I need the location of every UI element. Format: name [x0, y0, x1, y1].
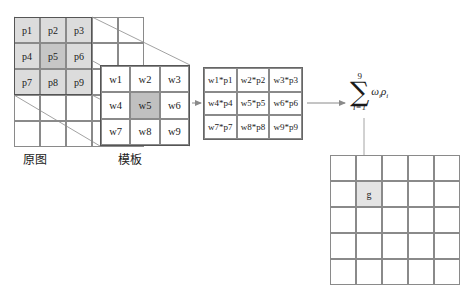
template-cell-w2: w2 — [130, 66, 159, 92]
summation-formula: 9 ∑ i=1 ωiρi — [350, 68, 416, 116]
output-cell-r0c4 — [434, 155, 460, 181]
output-cell-r3c3 — [408, 233, 434, 259]
source-cell-r0c4 — [118, 17, 144, 43]
template-cell-w4: w4 — [101, 92, 130, 118]
output-cell-r4c0 — [330, 259, 356, 285]
source-cell-p8: p8 — [40, 69, 66, 95]
output-cell-r0c1 — [356, 155, 382, 181]
template-cell-w9: w9 — [160, 119, 189, 145]
product-cell-r0c1: w2*p2 — [237, 68, 270, 92]
template-cell-w3: w3 — [160, 66, 189, 92]
product-grid: w1*p1 w2*p2 w3*p3 w4*p4 w5*p5 w6*p6 w7*p… — [203, 67, 303, 140]
output-cell-r4c1 — [356, 259, 382, 285]
source-cell-p1: p1 — [14, 17, 40, 43]
template-cell-w5: w5 — [130, 92, 159, 118]
output-cell-r4c3 — [408, 259, 434, 285]
output-cell-r2c3 — [408, 207, 434, 233]
product-cell-r1c1: w5*p5 — [237, 92, 270, 116]
diagram-canvas: p1 p2 p3 p4 p5 p6 p7 p8 p9 原图 w1 w2 w3 w… — [0, 0, 473, 296]
source-cell-p3: p3 — [66, 17, 92, 43]
output-cell-result: g — [356, 181, 382, 207]
output-cell-r3c4 — [434, 233, 460, 259]
sum-term-rho-sub: i — [386, 93, 388, 101]
output-cell-r1c4 — [434, 181, 460, 207]
template-cell-w1: w1 — [101, 66, 130, 92]
template-grid: w1 w2 w3 w4 w5 w6 w7 w8 w9 — [100, 65, 190, 146]
output-cell-r0c3 — [408, 155, 434, 181]
output-cell-r4c4 — [434, 259, 460, 285]
product-cell-r2c1: w8*p8 — [237, 115, 270, 139]
source-cell-p7: p7 — [14, 69, 40, 95]
template-cell-w7: w7 — [101, 119, 130, 145]
source-cell-r0c3 — [92, 17, 118, 43]
output-cell-r0c2 — [382, 155, 408, 181]
source-cell-p2: p2 — [40, 17, 66, 43]
sum-term: ωiρi — [371, 85, 388, 100]
sigma-icon: ∑ — [350, 81, 369, 104]
output-cell-r3c1 — [356, 233, 382, 259]
source-cell-p5: p5 — [40, 43, 66, 69]
output-cell-r2c4 — [434, 207, 460, 233]
template-cell-w6: w6 — [160, 92, 189, 118]
product-cell-r2c2: w9*p9 — [269, 115, 302, 139]
source-cell-r3c2 — [66, 95, 92, 121]
output-cell-r0c0 — [330, 155, 356, 181]
output-cell-r1c3 — [408, 181, 434, 207]
source-cell-r4c0 — [14, 121, 40, 147]
sum-lower-limit: i=1 — [353, 103, 366, 112]
template-cell-w8: w8 — [130, 119, 159, 145]
sigma-stack: 9 ∑ i=1 — [350, 72, 369, 113]
output-cell-r3c0 — [330, 233, 356, 259]
output-cell-r2c2 — [382, 207, 408, 233]
source-cell-r3c0 — [14, 95, 40, 121]
product-cell-r0c0: w1*p1 — [204, 68, 237, 92]
output-cell-r1c2 — [382, 181, 408, 207]
template-grid-label: 模板 — [118, 150, 142, 167]
output-cell-r2c1 — [356, 207, 382, 233]
output-image-grid: g — [330, 155, 460, 285]
output-cell-r1c0 — [330, 181, 356, 207]
source-cell-r4c2 — [66, 121, 92, 147]
sum-term-omega: ω — [371, 85, 379, 97]
source-cell-p4: p4 — [14, 43, 40, 69]
source-grid-label: 原图 — [23, 150, 47, 167]
output-cell-r3c2 — [382, 233, 408, 259]
source-cell-p9: p9 — [66, 69, 92, 95]
source-cell-p6: p6 — [66, 43, 92, 69]
product-cell-r2c0: w7*p7 — [204, 115, 237, 139]
product-cell-r0c2: w3*p3 — [269, 68, 302, 92]
output-cell-r2c0 — [330, 207, 356, 233]
source-cell-r3c1 — [40, 95, 66, 121]
source-cell-r4c1 — [40, 121, 66, 147]
product-cell-r1c0: w4*p4 — [204, 92, 237, 116]
product-cell-r1c2: w6*p6 — [269, 92, 302, 116]
output-cell-r4c2 — [382, 259, 408, 285]
